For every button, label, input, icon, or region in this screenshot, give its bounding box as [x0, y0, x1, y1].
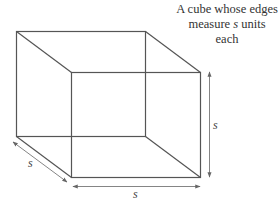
edge-top-right: [146, 32, 201, 73]
height-label: s: [213, 118, 218, 132]
back-face: [17, 32, 146, 137]
front-face: [72, 73, 201, 178]
cube-diagram: s s s: [0, 0, 278, 208]
width-label: s: [133, 187, 138, 201]
edge-bottom-right: [146, 137, 201, 178]
edge-bottom-left: [17, 137, 72, 178]
depth-label: s: [28, 156, 33, 170]
cube-edges: [17, 32, 201, 178]
depth-arrow: [13, 142, 67, 182]
edge-top-left: [17, 32, 72, 73]
